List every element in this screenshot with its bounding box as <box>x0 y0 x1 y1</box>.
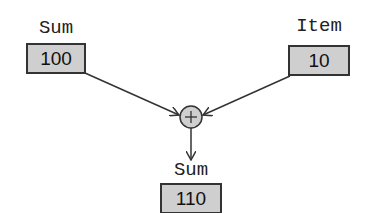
item-input-label: Item <box>288 16 350 36</box>
sum-input-box: 100 <box>26 43 86 74</box>
adder-node <box>180 106 202 128</box>
arrow-sum-to-adder <box>85 73 179 115</box>
sum-input-label: Sum <box>26 18 86 38</box>
sum-output-box: 110 <box>160 183 222 213</box>
item-input-box: 10 <box>288 45 350 76</box>
sum-output-label: Sum <box>160 160 222 180</box>
arrow-item-to-adder <box>203 76 290 115</box>
